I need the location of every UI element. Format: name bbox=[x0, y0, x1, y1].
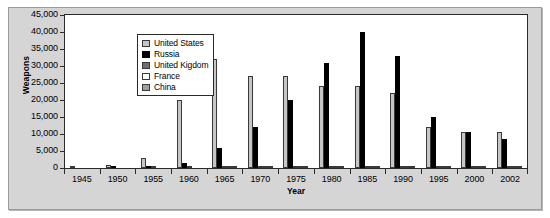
bar-ru-1995[interactable] bbox=[431, 117, 436, 168]
legend-swatch-fr-icon bbox=[142, 73, 150, 80]
y-axis-tick-label: 10,000 bbox=[31, 128, 58, 138]
x-axis-tick-label: 1950 bbox=[108, 174, 128, 184]
x-axis-tick-label: 1970 bbox=[250, 174, 270, 184]
bar-cn-1975[interactable] bbox=[303, 166, 308, 168]
bar-group-1990 bbox=[385, 15, 421, 168]
bar-uk-1960[interactable] bbox=[187, 166, 192, 168]
bar-us-1960[interactable] bbox=[177, 100, 182, 168]
y-axis-tick-label: 45,000 bbox=[31, 9, 58, 19]
bar-ru-1990[interactable] bbox=[395, 56, 400, 168]
y-axis-title: Weapons bbox=[21, 35, 31, 115]
bar-group-1975 bbox=[278, 15, 314, 168]
bar-group-1980 bbox=[314, 15, 350, 168]
x-axis-tick-mark bbox=[64, 169, 65, 174]
legend-item-ru[interactable]: Russia bbox=[142, 49, 208, 59]
bar-group-1950 bbox=[101, 15, 137, 168]
bar-groups bbox=[65, 15, 527, 168]
x-axis-tick-label: 1995 bbox=[429, 174, 449, 184]
bar-group-1985 bbox=[349, 15, 385, 168]
bar-ru-2002[interactable] bbox=[502, 139, 507, 168]
legend-item-us[interactable]: United States bbox=[142, 38, 208, 48]
x-axis-tick-mark bbox=[457, 169, 458, 174]
legend-item-label: France bbox=[154, 72, 180, 81]
bar-cn-1995[interactable] bbox=[446, 166, 451, 168]
bar-ru-1975[interactable] bbox=[288, 100, 293, 168]
bar-group-2002 bbox=[491, 15, 527, 168]
bar-cn-1970[interactable] bbox=[268, 166, 273, 168]
bar-us-1945[interactable] bbox=[70, 166, 75, 168]
y-axis-tick-label: 40,000 bbox=[31, 26, 58, 36]
bar-ru-2000[interactable] bbox=[466, 132, 471, 168]
legend-item-cn[interactable]: China bbox=[142, 82, 208, 92]
bar-group-2000 bbox=[456, 15, 492, 168]
x-axis-tick-mark bbox=[242, 169, 243, 174]
legend-item-fr[interactable]: France bbox=[142, 71, 208, 81]
bar-ru-1985[interactable] bbox=[360, 32, 365, 168]
x-axis-tick-label: 1945 bbox=[72, 174, 92, 184]
bar-group-1995 bbox=[420, 15, 456, 168]
x-axis-tick-mark bbox=[527, 169, 528, 174]
legend-item-label: Russia bbox=[154, 50, 179, 59]
x-axis-tick-mark bbox=[421, 169, 422, 174]
chart-legend: United StatesRussiaUnited KigdomFranceCh… bbox=[137, 34, 214, 96]
x-axis-tick-label: 1965 bbox=[215, 174, 235, 184]
x-axis-tick-mark bbox=[385, 169, 386, 174]
chart-figure: Weapons 45,00040,00035,00030,00025,00020… bbox=[0, 0, 550, 218]
x-axis-tick-mark bbox=[100, 169, 101, 174]
legend-item-label: China bbox=[154, 83, 176, 92]
legend-swatch-cn-icon bbox=[142, 84, 150, 91]
bar-cn-2002[interactable] bbox=[517, 166, 522, 168]
bar-ru-1965[interactable] bbox=[217, 148, 222, 168]
y-axis-tick-label: 35,000 bbox=[31, 43, 58, 53]
bar-ru-1970[interactable] bbox=[253, 127, 258, 168]
x-axis-tick-mark bbox=[171, 169, 172, 174]
x-axis-tick-mark bbox=[278, 169, 279, 174]
bar-group-1945 bbox=[65, 15, 101, 168]
bar-cn-1965[interactable] bbox=[232, 166, 237, 168]
x-axis-title: Year bbox=[64, 186, 528, 196]
plot-area: United StatesRussiaUnited KigdomFranceCh… bbox=[64, 14, 528, 169]
y-axis-tick-label: 15,000 bbox=[31, 111, 58, 121]
y-axis-tick-label: 0 bbox=[53, 162, 58, 172]
x-axis-tick-mark bbox=[135, 169, 136, 174]
x-axis-tick-label: 2000 bbox=[465, 174, 485, 184]
y-axis-tick-label: 30,000 bbox=[31, 60, 58, 70]
x-axis-tick-label: 1985 bbox=[358, 174, 378, 184]
x-axis-tick-label: 2002 bbox=[500, 174, 520, 184]
legend-swatch-ru-icon bbox=[142, 51, 150, 58]
bar-cn-2000[interactable] bbox=[481, 166, 486, 168]
x-axis-tick-mark bbox=[314, 169, 315, 174]
x-axis-tick-label: 1960 bbox=[179, 174, 199, 184]
bar-uk-1955[interactable] bbox=[151, 166, 156, 168]
legend-swatch-uk-icon bbox=[142, 62, 150, 69]
legend-item-uk[interactable]: United Kigdom bbox=[142, 60, 208, 70]
bar-ru-1980[interactable] bbox=[324, 63, 329, 168]
legend-item-label: United States bbox=[154, 39, 204, 48]
x-axis-tick-label: 1955 bbox=[143, 174, 163, 184]
y-axis-tick-label: 25,000 bbox=[31, 77, 58, 87]
x-axis-tick-mark bbox=[207, 169, 208, 174]
x-axis-tick-label: 1980 bbox=[322, 174, 342, 184]
bar-cn-1980[interactable] bbox=[339, 166, 344, 168]
bar-group-1970 bbox=[243, 15, 279, 168]
y-axis: Weapons 45,00040,00035,00030,00025,00020… bbox=[0, 14, 64, 169]
x-axis-tick-label: 1990 bbox=[393, 174, 413, 184]
y-axis-tick-label: 20,000 bbox=[31, 94, 58, 104]
bar-ru-1950[interactable] bbox=[111, 166, 116, 168]
x-axis-tick-label: 1975 bbox=[286, 174, 306, 184]
y-axis-tick-label: 5,000 bbox=[36, 145, 58, 155]
x-axis-tick-mark bbox=[350, 169, 351, 174]
legend-swatch-us-icon bbox=[142, 40, 150, 47]
bar-cn-1985[interactable] bbox=[375, 166, 380, 168]
legend-item-label: United Kigdom bbox=[154, 61, 208, 70]
bar-cn-1990[interactable] bbox=[410, 166, 415, 168]
x-axis-tick-mark bbox=[492, 169, 493, 174]
